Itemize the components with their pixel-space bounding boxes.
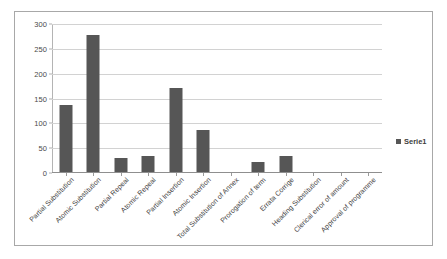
x-axis-category-label: Partial Substitution (28, 176, 75, 223)
x-axis-category-labels: Partial SubstitutionAtomic SubstitutionP… (52, 173, 382, 247)
bar[interactable] (169, 88, 182, 173)
bar-slot (52, 24, 80, 173)
bar-slot (300, 24, 328, 173)
bar-slot (355, 24, 383, 173)
y-axis-tick-label: 150 (34, 94, 47, 103)
bar-slot (217, 24, 245, 173)
y-axis-tick-label: 250 (34, 44, 47, 53)
bar-slot (107, 24, 135, 173)
bars-layer (52, 24, 382, 173)
x-axis-category-label: Heading Substitution (271, 176, 322, 227)
chart-frame: 050100150200250300 Partial SubstitutionA… (14, 11, 433, 246)
legend-square-marker (396, 139, 401, 144)
y-axis-tick-label: 50 (38, 144, 47, 153)
x-axis-category-label: Approval of programme (320, 176, 377, 233)
bar-slot (245, 24, 273, 173)
y-axis-tick-label: 100 (34, 119, 47, 128)
bar-slot (327, 24, 355, 173)
bar-slot (190, 24, 218, 173)
chart-legend: Serie1 (396, 137, 427, 146)
bar[interactable] (59, 105, 72, 173)
bar-slot (80, 24, 108, 173)
y-axis-tick-label: 200 (34, 69, 47, 78)
bar[interactable] (197, 130, 210, 173)
y-axis-tick-label: 300 (34, 20, 47, 29)
plot-area: 050100150200250300 (52, 24, 382, 173)
bar[interactable] (114, 158, 127, 173)
bar[interactable] (142, 156, 155, 173)
bar-slot (135, 24, 163, 173)
y-axis-tick-label: 0 (43, 169, 47, 178)
bar[interactable] (279, 156, 292, 173)
bar-slot (272, 24, 300, 173)
x-axis-category-label: Clerical error of amount (292, 176, 350, 234)
bar[interactable] (87, 35, 100, 173)
legend-entry-label: Serie1 (404, 137, 427, 146)
bar-slot (162, 24, 190, 173)
